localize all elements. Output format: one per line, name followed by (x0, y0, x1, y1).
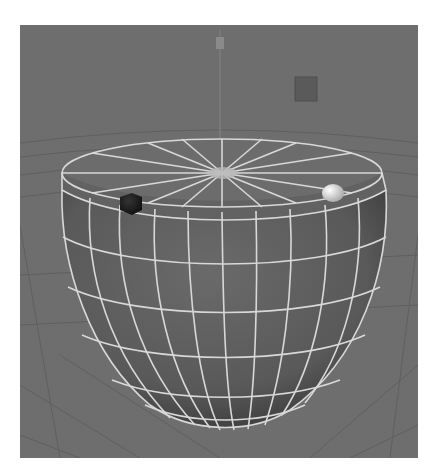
light-sphere-marker[interactable] (322, 184, 344, 202)
square-light-icon[interactable] (295, 77, 317, 101)
3d-viewport[interactable]: 3D perspective viewport (20, 25, 418, 458)
sphere-bowl[interactable] (62, 139, 386, 430)
